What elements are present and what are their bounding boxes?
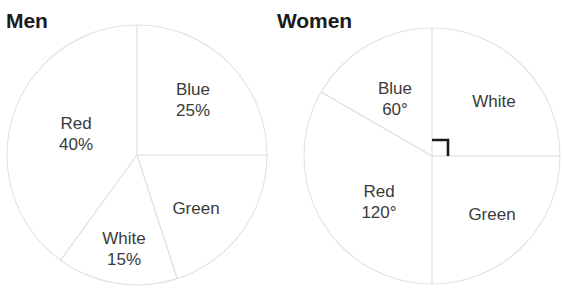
- pie-chart-figure: Men Blue 25% Green White 15% Red 40% Wom…: [0, 0, 563, 289]
- women-slice-label-green: Green: [468, 204, 515, 225]
- women-slice-name-green: Green: [468, 205, 515, 224]
- women-slice-label-white: White: [472, 91, 515, 112]
- women-slice-label-blue: Blue 60°: [378, 78, 412, 120]
- women-slice-value-blue: 60°: [378, 99, 412, 120]
- women-slice-value-red: 120°: [361, 202, 396, 223]
- women-slice-label-red: Red 120°: [361, 181, 396, 223]
- women-pie-graphic: [0, 0, 563, 289]
- women-chart-title: Women: [277, 9, 352, 33]
- women-slice-name-white: White: [472, 92, 515, 111]
- women-slice-name-red: Red: [363, 182, 394, 201]
- women-slice-name-blue: Blue: [378, 79, 412, 98]
